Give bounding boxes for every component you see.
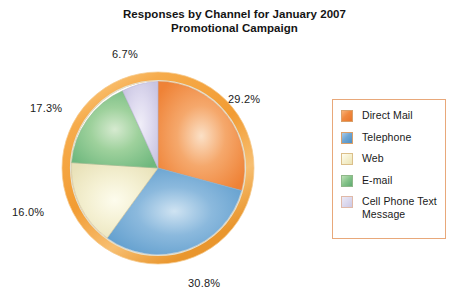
legend-swatch-icon-web bbox=[341, 153, 353, 165]
legend-item-direct-mail[interactable]: Direct Mail bbox=[341, 109, 440, 122]
legend-swatch-icon-direct-mail bbox=[341, 110, 353, 122]
legend-swatch-icon-cell-phone bbox=[341, 196, 353, 208]
legend-item-web[interactable]: Web bbox=[341, 152, 440, 165]
legend-item-email[interactable]: E-mail bbox=[341, 174, 440, 187]
legend-swatch-icon-email bbox=[341, 175, 353, 187]
pie-label-direct-mail: 29.2% bbox=[228, 93, 260, 105]
pie-label-web: 16.0% bbox=[12, 206, 44, 218]
legend-label-cell-phone: Cell Phone Text Message bbox=[362, 195, 440, 220]
legend-item-telephone[interactable]: Telephone bbox=[341, 131, 440, 144]
legend-swatch-icon-telephone bbox=[341, 132, 353, 144]
legend-list: Direct Mail Telephone Web E-mail Cell Ph… bbox=[341, 109, 440, 220]
chart-legend: Direct Mail Telephone Web E-mail Cell Ph… bbox=[332, 99, 446, 239]
legend-label-email: E-mail bbox=[362, 174, 392, 187]
chart-title-line-2: Promotional Campaign bbox=[0, 21, 469, 35]
chart-title: Responses by Channel for January 2007 Pr… bbox=[0, 7, 469, 35]
legend-label-telephone: Telephone bbox=[362, 131, 411, 144]
legend-item-cell-phone[interactable]: Cell Phone Text Message bbox=[341, 195, 440, 220]
chart-title-line-1: Responses by Channel for January 2007 bbox=[123, 8, 346, 20]
pie-label-cell-phone: 6.7% bbox=[112, 48, 138, 60]
pie-chart-figure: Responses by Channel for January 2007 Pr… bbox=[0, 0, 469, 308]
legend-label-direct-mail: Direct Mail bbox=[362, 109, 413, 122]
legend-label-web: Web bbox=[362, 152, 384, 165]
pie-label-email: 17.3% bbox=[30, 102, 62, 114]
pie-label-telephone: 30.8% bbox=[188, 277, 220, 289]
